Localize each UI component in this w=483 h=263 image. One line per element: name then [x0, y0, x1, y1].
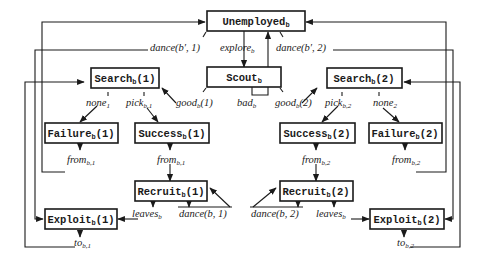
- edge-good1: [162, 88, 176, 103]
- node-exploit-1[interactable]: Exploitb(1): [45, 209, 117, 229]
- edge-pick2-b: [322, 106, 338, 122]
- edge-dance-b1-back: [210, 188, 230, 207]
- label-to-b1: tob,1: [74, 237, 91, 250]
- label-none2: none2: [373, 97, 397, 110]
- label-from-b1-failure: fromb,1: [67, 154, 95, 167]
- svg-text:Successb(1): Successb(1): [138, 128, 205, 141]
- svg-text:Exploitb(2): Exploitb(2): [373, 214, 440, 227]
- label-from-b2-failure: fromb,2: [392, 154, 421, 167]
- label-explore: exploreb: [220, 42, 255, 55]
- svg-text:Scoutb: Scoutb: [226, 72, 262, 85]
- svg-text:Recruitb(1): Recruitb(1): [137, 186, 204, 199]
- label-pick-b1: pickb,1: [125, 97, 152, 110]
- label-good2: goodb(2): [275, 97, 312, 110]
- node-success-1[interactable]: Successb(1): [135, 123, 209, 143]
- node-scout[interactable]: Scoutb: [207, 67, 281, 87]
- svg-text:Unemployedb: Unemployedb: [222, 16, 289, 29]
- state-diagram: Unemployedb Scoutb Searchb(1) Searchb(2)…: [0, 0, 483, 263]
- node-recruit-1[interactable]: Recruitb(1): [135, 181, 207, 201]
- svg-text:Failureb(2): Failureb(2): [371, 128, 438, 141]
- node-recruit-2[interactable]: Recruitb(2): [280, 181, 353, 201]
- label-pick-b2: pickb,2: [324, 97, 352, 110]
- label-dance-b-1: dance(b, 1): [179, 208, 227, 220]
- label-from-b1-success: fromb,1: [157, 154, 185, 167]
- svg-text:Exploitb(1): Exploitb(1): [47, 214, 114, 227]
- label-none1: none1: [86, 97, 110, 110]
- edge-none1-b: [80, 106, 97, 122]
- edge-dance-b2-back: [253, 188, 276, 207]
- label-dance-bprime-1: dance(b′, 1): [150, 42, 201, 54]
- svg-text:Searchb(1): Searchb(1): [95, 73, 156, 86]
- node-exploit-2[interactable]: Exploitb(2): [370, 209, 444, 229]
- tip-dance-bp2: [280, 32, 283, 37]
- label-to-b2: tob,2: [397, 237, 414, 250]
- node-search-2[interactable]: Searchb(2): [327, 68, 402, 88]
- label-dance-bprime-2: dance(b′, 2): [276, 42, 327, 54]
- node-failure-1[interactable]: Failureb(1): [45, 123, 118, 143]
- edge-pick1-b: [147, 108, 158, 122]
- svg-text:Recruitb(2): Recruitb(2): [282, 186, 349, 199]
- label-leaves-2: leavesb: [316, 208, 346, 221]
- svg-text:Searchb(2): Searchb(2): [334, 73, 395, 86]
- svg-text:Successb(2): Successb(2): [283, 128, 350, 141]
- label-good1: goodb(1): [176, 97, 213, 110]
- node-search-1[interactable]: Searchb(1): [91, 68, 159, 88]
- tip-good1: [203, 88, 206, 92]
- edge-none2-b: [383, 108, 399, 122]
- node-failure-2[interactable]: Failureb(2): [369, 123, 442, 143]
- tip-dance-bp1: [203, 32, 206, 37]
- label-dance-b-2: dance(b, 2): [251, 208, 299, 220]
- node-success-2[interactable]: Successb(2): [280, 123, 355, 143]
- svg-text:Failureb(1): Failureb(1): [47, 128, 114, 141]
- tip-good2: [280, 88, 283, 92]
- label-bad: badb: [237, 97, 257, 110]
- node-unemployed[interactable]: Unemployedb: [207, 11, 305, 31]
